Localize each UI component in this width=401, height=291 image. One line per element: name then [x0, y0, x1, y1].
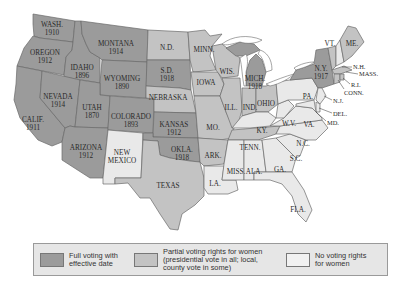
label-arizona-year: 1912: [79, 152, 94, 160]
label-colorado: COLORADO: [111, 113, 151, 121]
label-wv: W.V.: [282, 120, 296, 128]
label-sd: S.D.: [161, 67, 174, 75]
legend-label-full: Full voting with effective date: [69, 252, 118, 268]
leader-del: [319, 108, 332, 113]
label-utah-year: 1870: [85, 112, 100, 120]
label-calif-year: 1911: [26, 124, 41, 132]
legend-item-none: No voting rights for women: [286, 244, 366, 275]
label-md: MD.: [327, 119, 339, 126]
legend-item-partial: Partial voting rights for women (preside…: [134, 244, 262, 275]
label-me: ME.: [346, 40, 359, 48]
label-wash: WASH.: [41, 21, 63, 29]
label-new-mexico-1: NEW: [114, 149, 131, 157]
leader-mass: [346, 72, 358, 74]
label-sd-year: 1918: [160, 75, 175, 83]
label-sc: S.C.: [290, 155, 303, 163]
label-miss: MISS.: [227, 168, 246, 176]
label-oregon: OREGON: [30, 49, 61, 57]
legend-item-full: Full voting with effective date: [40, 244, 118, 275]
label-conn: CONN.: [344, 89, 364, 96]
label-ri: R.I.: [351, 81, 361, 88]
state-connecticut: [334, 74, 340, 84]
legend-swatch-full: [40, 253, 64, 267]
label-minn: MINN.: [194, 46, 215, 54]
leader-ri: [343, 78, 350, 84]
label-la: LA.: [209, 180, 221, 188]
label-nh: N.H.: [353, 63, 366, 70]
label-arizona: ARIZONA: [70, 144, 103, 152]
label-nevada-year: 1914: [51, 101, 66, 109]
label-ky: KY.: [256, 127, 267, 135]
label-calif: CALIF.: [22, 116, 44, 124]
label-del: DEL.: [333, 110, 347, 117]
label-wis: WIS.: [220, 68, 235, 76]
label-wash-year: 1910: [45, 29, 60, 37]
state-delaware: [316, 102, 320, 112]
label-kansas-year: 1912: [167, 129, 182, 137]
label-wyoming-year: 1890: [115, 83, 130, 91]
label-nj: N.J.: [333, 97, 344, 104]
label-nd: N.D.: [160, 44, 174, 52]
label-idaho: IDAHO: [70, 64, 93, 72]
label-new-mexico-2: MEXICO: [108, 157, 136, 165]
label-colorado-year: 1893: [124, 121, 139, 129]
us-suffrage-map: WASH. 1910 OREGON 1912 CALIF. 1911 IDAHO…: [0, 0, 401, 245]
label-mass: MASS.: [359, 70, 378, 77]
label-tenn: TENN.: [240, 144, 261, 152]
label-ala: ALA.: [246, 168, 263, 176]
label-ohio: OHIO: [257, 100, 275, 108]
label-nevada: NEVADA: [43, 93, 73, 101]
legend-swatch-none: [286, 253, 310, 267]
label-vt: VT.: [325, 40, 336, 48]
label-pa: PA.: [303, 93, 314, 101]
label-texas: TEXAS: [156, 182, 179, 190]
label-ind: IND.: [243, 104, 258, 112]
label-wyoming: WYOMING: [104, 75, 140, 83]
label-ny-year: 1917: [314, 73, 329, 81]
state-rhode-island: [340, 74, 344, 80]
label-ill: ILL.: [225, 104, 238, 112]
label-nebraska: NEBRASKA: [149, 94, 189, 102]
label-va: VA.: [303, 121, 314, 129]
label-iowa: IOWA: [197, 79, 217, 87]
label-mich-year: 1918: [248, 83, 263, 91]
label-fla: FLA.: [290, 206, 306, 214]
label-nc: N.C.: [296, 140, 310, 148]
label-mich: MICH.: [245, 75, 266, 83]
label-ark: ARK.: [205, 152, 222, 160]
legend-swatch-partial: [134, 253, 158, 267]
label-idaho-year: 1896: [75, 72, 90, 80]
label-montana-year: 1914: [109, 48, 124, 56]
label-okla-year: 1918: [175, 154, 190, 162]
label-mo: MO.: [206, 124, 220, 132]
legend-label-partial: Partial voting rights for women (preside…: [163, 248, 262, 272]
label-ga: GA.: [274, 166, 286, 174]
state-florida: [254, 172, 312, 222]
label-ny: N.Y.: [314, 65, 327, 73]
label-utah: UTAH: [82, 104, 101, 112]
label-montana: MONTANA: [98, 40, 135, 48]
label-oregon-year: 1912: [38, 57, 53, 65]
leader-nj: [324, 96, 332, 100]
map-legend: Full voting with effective date Partial …: [33, 243, 388, 276]
legend-label-none: No voting rights for women: [315, 252, 366, 268]
leader-conn: [338, 80, 344, 89]
label-kansas: KANSAS: [160, 121, 189, 129]
label-okla: OKLA.: [171, 146, 193, 154]
